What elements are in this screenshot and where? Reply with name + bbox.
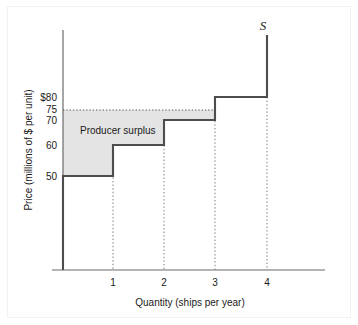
producer-surplus-label: Producer surplus — [80, 125, 156, 136]
supply-curve-plot: S Producer surplus $80 75 70 60 50 1 2 3… — [0, 0, 358, 325]
x-axis-title: Quantity (ships per year) — [135, 297, 245, 308]
supply-curve-label: S — [260, 18, 267, 33]
x-tick-label-4: 4 — [264, 277, 270, 288]
y-tick-label-75: 75 — [46, 104, 58, 115]
y-axis-title: Price (millions of $ per unit) — [23, 89, 34, 210]
x-tick-label-3: 3 — [212, 277, 218, 288]
y-tick-label-50: 50 — [46, 171, 58, 182]
x-tick-label-2: 2 — [161, 277, 167, 288]
producer-surplus-chart-figure: S Producer surplus $80 75 70 60 50 1 2 3… — [0, 0, 358, 325]
y-tick-label-60: 60 — [46, 140, 58, 151]
x-tick-label-1: 1 — [110, 277, 116, 288]
y-tick-label-70: 70 — [46, 115, 58, 126]
y-tick-label-80: $80 — [40, 92, 57, 103]
